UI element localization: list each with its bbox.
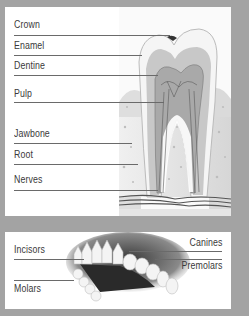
dental-arch-illustration	[60, 232, 190, 309]
label-premolars: Premolars	[181, 260, 222, 271]
tooth-anatomy-panel: Crown Enamel Dentine Pulp Jawbone Root N…	[5, 7, 231, 216]
leader-line-crown	[14, 35, 170, 36]
label-pulp: Pulp	[14, 88, 32, 99]
label-root: Root	[14, 149, 33, 160]
leader-line-root	[14, 164, 138, 165]
leader-line-nerves	[14, 190, 158, 191]
label-enamel: Enamel	[14, 40, 44, 51]
leader-line-jawbone	[14, 143, 132, 144]
label-nerves: Nerves	[14, 174, 42, 185]
leader-line-molars	[14, 280, 74, 281]
leader-line-pulp	[14, 102, 164, 103]
tooth-cross-section-illustration	[119, 7, 231, 216]
teeth-types-panel: Incisors Molars Canines Premolars	[5, 232, 231, 309]
label-incisors: Incisors	[14, 244, 45, 255]
label-dentine: Dentine	[14, 60, 45, 71]
leader-line-incisors	[14, 259, 84, 260]
label-crown: Crown	[14, 19, 40, 30]
label-canines: Canines	[189, 237, 222, 248]
leader-line-enamel	[14, 55, 142, 56]
label-jawbone: Jawbone	[14, 128, 50, 139]
leader-line-canines	[129, 251, 222, 252]
leader-line-premolars	[155, 259, 222, 260]
leader-line-dentine	[14, 75, 158, 76]
label-molars: Molars	[14, 283, 41, 294]
